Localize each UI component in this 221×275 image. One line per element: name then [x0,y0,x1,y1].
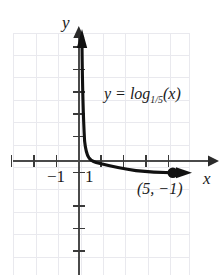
y-axis-label: y [62,14,70,31]
equation-base: 1/5 [150,95,163,105]
x-axis-label: x [203,170,211,187]
function-equation-label: y = log1/5(x) [104,86,181,105]
point-marker-5-neg1 [168,168,179,179]
x-tick-label-neg1: −1 [47,168,65,185]
x-axis [13,156,219,167]
grid-lines [14,33,190,275]
equation-rhs: (x) [163,85,181,102]
equation-lhs: y = log [104,85,150,102]
point-coordinate-label: (5, −1) [137,181,182,197]
graph-canvas [0,0,221,275]
log-function-graph-figure: y x −1 1 y = log1/5(x) (5, −1) [0,0,221,275]
x-tick-label-1: 1 [85,168,94,185]
